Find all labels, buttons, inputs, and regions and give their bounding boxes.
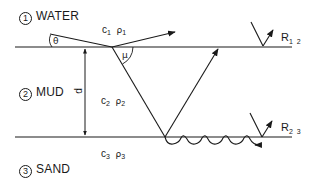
layer-name-text: MUD	[36, 85, 64, 99]
thickness-label: d	[74, 88, 84, 94]
reflected-ray-up-mud	[165, 49, 218, 137]
sand-parameters: c3 ρ3	[101, 149, 125, 160]
r12-label: R1 2	[281, 32, 302, 45]
r23-reflected-arrow	[262, 121, 272, 137]
speed-subscript: 3	[106, 153, 110, 160]
water-parameters: c1 ρ1	[102, 25, 126, 36]
r12-incident-line	[251, 22, 263, 46]
layer-number-circle: 2	[19, 88, 32, 101]
reflection-symbol: R	[281, 31, 289, 43]
layer-number-circle: 3	[19, 165, 32, 178]
refracted-ray-down	[112, 47, 165, 137]
layer-label-mud: 2MUD	[19, 86, 64, 101]
layer-name-text: SAND	[36, 162, 70, 176]
density-subscript: 1	[122, 29, 126, 36]
layer-name-text: WATER	[36, 9, 79, 23]
theta-label: θ	[53, 37, 59, 46]
density-subscript: 2	[121, 100, 125, 107]
r23-incident-line	[250, 113, 262, 137]
mu-label: μ	[122, 51, 128, 60]
theta-angle-arc	[50, 35, 52, 47]
reflection-symbol: R	[281, 121, 289, 133]
r23-label: R2 3	[281, 122, 302, 135]
speed-subscript: 2	[106, 100, 110, 107]
speed-subscript: 1	[107, 29, 111, 36]
reflection-subscript: 2 3	[289, 128, 302, 135]
layer-label-sand: 3SAND	[19, 163, 70, 178]
density-subscript: 3	[121, 153, 125, 160]
layer-label-water: 1WATER	[19, 10, 79, 25]
mud-parameters: c2 ρ2	[101, 96, 125, 107]
layer-number-circle: 1	[19, 12, 32, 25]
reflection-subscript: 1 2	[289, 38, 302, 45]
r12-reflected-arrow	[263, 30, 273, 46]
